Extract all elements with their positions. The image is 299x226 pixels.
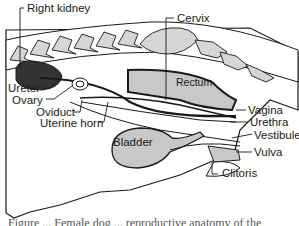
label-clitoris: Clitoris — [222, 168, 257, 180]
label-vestibule: Vestibule — [254, 130, 299, 142]
label-rectum: Rectum — [176, 77, 212, 88]
label-vulva: Vulva — [254, 147, 282, 159]
label-bladder: Bladder — [113, 137, 153, 149]
label-ureter: Ureter — [8, 83, 40, 95]
label-vagina: Vagina — [248, 105, 283, 117]
label-cervix: Cervix — [177, 13, 210, 25]
label-uterine-horn: Uterine horn — [40, 118, 103, 130]
label-right-kidney: Right kidney — [27, 3, 90, 15]
label-urethra: Urethra — [250, 117, 288, 129]
label-ovary: Ovary — [12, 95, 43, 107]
ovary-shape — [72, 78, 88, 90]
figure-caption: Figure ... Female dog ... reproductive a… — [8, 216, 261, 226]
